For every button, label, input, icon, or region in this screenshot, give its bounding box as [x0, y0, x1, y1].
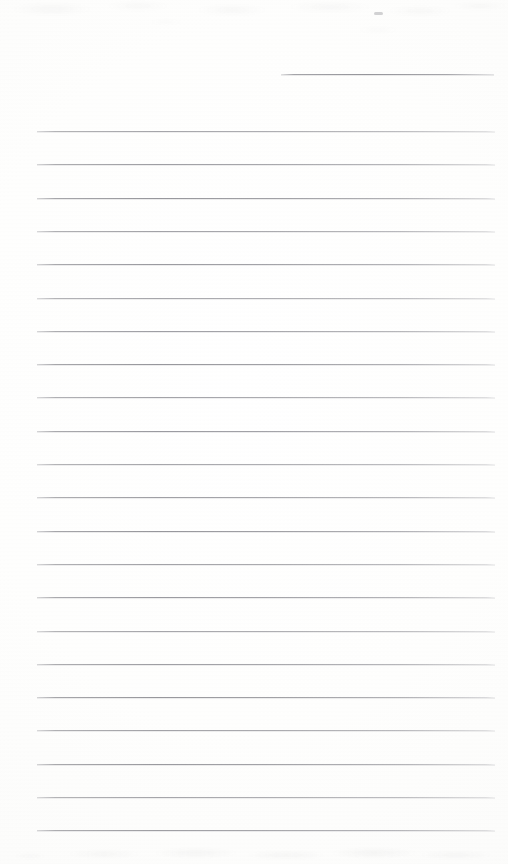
scanned-page [0, 0, 508, 864]
paper-background [0, 0, 508, 864]
